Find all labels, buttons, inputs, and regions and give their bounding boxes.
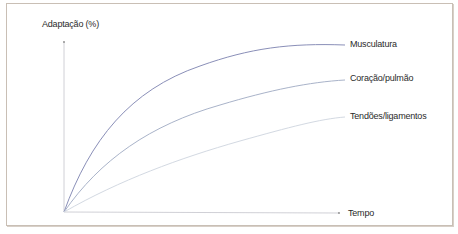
y-axis-arrow-icon: [63, 41, 65, 43]
legend-tendoes-ligamentos: Tendões/ligamentos: [350, 111, 426, 121]
y-axis-label: Adaptação (%): [42, 19, 99, 29]
series-musculatura: [64, 45, 345, 212]
x-axis: [64, 212, 339, 213]
legend-coracao-pulmao: Coração/pulmão: [350, 73, 413, 83]
x-axis-arrow-icon: [338, 212, 340, 214]
legend-musculatura: Musculatura: [350, 39, 397, 49]
series-coracao-pulmao: [64, 80, 345, 212]
x-axis-label: Tempo: [348, 208, 374, 218]
